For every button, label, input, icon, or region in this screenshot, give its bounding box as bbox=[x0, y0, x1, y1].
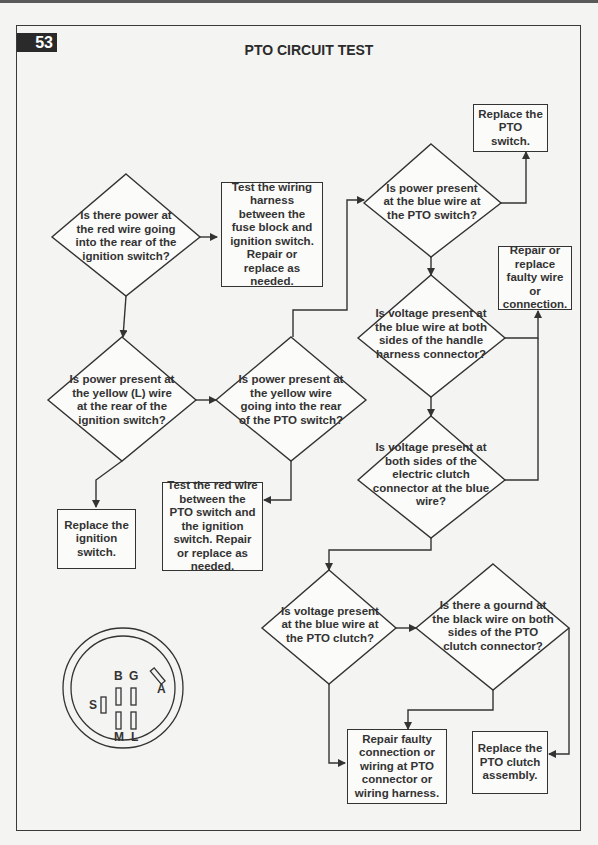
decision-d4: Is power present at the blue wire at the… bbox=[382, 158, 482, 246]
pin-label-a: A bbox=[157, 682, 166, 696]
pin-label-m: M bbox=[114, 730, 124, 744]
action-box-b1: Test the wiring harness between the fuse… bbox=[221, 182, 323, 287]
decision-d7: Is voltage present at the blue wire at t… bbox=[280, 580, 380, 670]
pin-label-l: L bbox=[131, 730, 138, 744]
action-box-b6: Repair faulty connection or wiring at PT… bbox=[347, 729, 447, 804]
decision-d5: Is voltage present at the blue wire at b… bbox=[370, 286, 492, 382]
action-box-b4: Replace the PTO switch. bbox=[473, 104, 548, 152]
action-box-b2: Replace the ignition switch. bbox=[57, 509, 136, 569]
decision-d6: Is voltage present at both sides of the … bbox=[372, 428, 490, 522]
decision-d3: Is power present at the yellow wire goin… bbox=[234, 364, 348, 436]
action-box-b5: Repair or replace faulty wire or connect… bbox=[498, 246, 572, 310]
pin-label-g: G bbox=[129, 669, 138, 683]
decision-d8: Is there a gournd at the black wire on b… bbox=[430, 578, 556, 674]
pin-label-s: S bbox=[89, 698, 97, 712]
decision-d2: Is power present at the yellow (L) wire … bbox=[66, 352, 178, 448]
decision-d1: Is there power at the red wire going int… bbox=[74, 196, 178, 276]
action-box-b3: Test the red wire between the PTO switch… bbox=[162, 482, 263, 571]
pin-label-b: B bbox=[114, 669, 123, 683]
action-box-b7: Replace the PTO clutch assembly. bbox=[472, 731, 548, 794]
